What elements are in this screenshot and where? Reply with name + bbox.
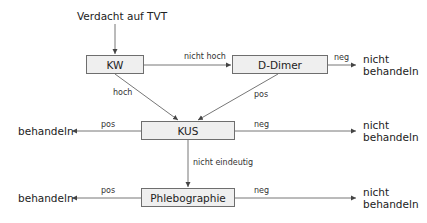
node-kw: KW bbox=[86, 55, 144, 74]
outcome-ddimer-neg: nicht behandeln bbox=[363, 53, 419, 77]
outcome-line: nicht bbox=[363, 53, 419, 65]
edge-label-hoch: hoch bbox=[113, 89, 132, 97]
node-kus: KUS bbox=[141, 121, 235, 140]
start-label: Verdacht auf TVT bbox=[77, 11, 167, 22]
edge-label-phlebo-pos: pos bbox=[101, 187, 115, 195]
edge-label-ddimer-neg: neg bbox=[334, 54, 349, 62]
outcome-phlebo-neg: nicht behandeln bbox=[363, 186, 419, 210]
edge-label-kus-pos: pos bbox=[101, 121, 115, 129]
edge-label-phlebo-neg: neg bbox=[254, 187, 269, 195]
outcome-line: nicht bbox=[363, 186, 419, 198]
outcome-line: nicht bbox=[363, 119, 419, 131]
edge-label-nicht-hoch: nicht hoch bbox=[184, 53, 226, 61]
outcome-kus-pos: behandeln bbox=[18, 125, 74, 137]
arrow-kw-to-kus bbox=[115, 74, 178, 120]
tvt-flowchart: Verdacht auf TVT KW D-Dimer KUS Phlebogr… bbox=[0, 0, 427, 223]
node-phlebographie: Phlebographie bbox=[141, 188, 235, 207]
outcome-phlebo-pos: behandeln bbox=[18, 192, 74, 204]
outcome-line: behandeln bbox=[363, 198, 419, 210]
edge-label-kus-neg: neg bbox=[254, 121, 269, 129]
outcome-line: behandeln bbox=[363, 131, 419, 143]
outcome-kus-neg: nicht behandeln bbox=[363, 119, 419, 143]
edge-label-ddimer-pos: pos bbox=[254, 91, 268, 99]
node-ddimer: D-Dimer bbox=[232, 55, 328, 74]
edge-label-nicht-eindeutig: nicht eindeutig bbox=[193, 159, 253, 167]
outcome-line: behandeln bbox=[363, 65, 419, 77]
